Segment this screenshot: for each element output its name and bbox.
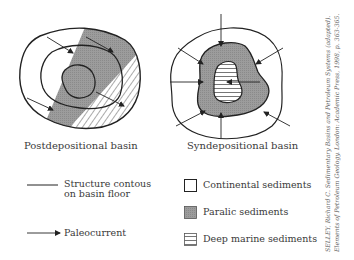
citation-line-2: Elements of Petroleum Geology. London: A… [333,14,340,252]
deep-marine-swatch [185,234,197,246]
basin-diagrams [0,0,354,260]
paralic-swatch [185,207,197,219]
citation: SELLEY, Richard C. Sedimentary Basins an… [318,0,354,260]
postdepositional-caption: Postdepositional basin [24,140,138,151]
legend-paleocurrent-label: Paleocurrent [64,228,126,238]
legend-paralic-label: Paralic sediments [203,207,288,217]
legend-contour-label-2: on basin floor [64,189,130,199]
citation-line-1: SELLEY, Richard C. Sedimentary Basins an… [324,16,331,252]
continental-swatch [185,180,197,192]
legend-deep-marine-label: Deep marine sediments [203,234,317,244]
postdepositional-basin-diagram [0,0,170,140]
legend-continental-label: Continental sediments [203,180,311,190]
syndepositional-caption: Syndepositional basin [187,140,298,151]
syndepositional-basin-diagram [170,14,290,139]
